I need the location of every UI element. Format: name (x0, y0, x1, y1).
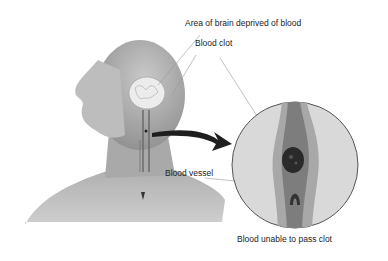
brain-area-illustration (129, 77, 165, 109)
label-blood-vessel: Blood vessel (165, 168, 213, 178)
face-illustration (75, 60, 125, 138)
blood-clot-icon (282, 147, 304, 173)
label-brain-area: Area of brain deprived of blood (185, 18, 301, 28)
diagram-canvas (0, 0, 388, 261)
label-blood-blocked: Blood unable to pass clot (237, 234, 332, 244)
label-blood-clot: Blood clot (195, 38, 232, 48)
shoulders-illustration (25, 170, 225, 225)
